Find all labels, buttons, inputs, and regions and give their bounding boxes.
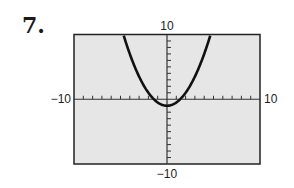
- graph: 10 −10 −10 10: [0, 0, 294, 188]
- x-max-label: 10: [264, 92, 278, 106]
- y-max-label: 10: [160, 19, 174, 33]
- x-min-label: −10: [51, 92, 72, 106]
- y-min-label: −10: [157, 167, 178, 181]
